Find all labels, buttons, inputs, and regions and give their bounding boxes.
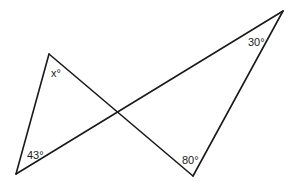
geometry-diagram: x° 43° 30° 80° [0, 0, 299, 188]
triangles-figure: x° 43° 30° 80° [0, 0, 299, 188]
segment-bottom-left-to-top-right [16, 11, 283, 174]
segment-top-left-to-bottom-right [49, 54, 193, 176]
angle-label-43: 43° [27, 149, 44, 161]
segment-right-side [193, 11, 283, 176]
angle-label-30: 30° [248, 36, 265, 48]
angle-label-80: 80° [182, 154, 199, 166]
angle-label-x: x° [51, 67, 61, 79]
